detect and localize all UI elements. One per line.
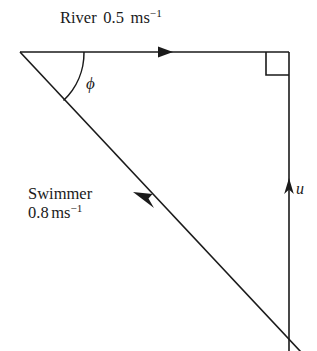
velocity-triangle-diagram: River 0.5 ms−1 Swimmer 0.8ms−1 ϕ u <box>0 0 317 351</box>
river-label-unit: ms <box>131 8 150 27</box>
swimmer-label-value: 0.8 <box>28 203 49 222</box>
swimmer-label-name: Swimmer <box>28 184 92 203</box>
swimmer-label-unit: ms <box>51 203 70 222</box>
resultant-u-label: u <box>296 180 304 199</box>
swimmer-label-exponent: −1 <box>70 202 82 214</box>
right-angle-marker-icon <box>266 52 289 75</box>
angle-arc-icon <box>64 52 85 101</box>
swimmer-velocity-label: Swimmer 0.8ms−1 <box>28 184 92 223</box>
swimmer-label-magnitude: 0.8ms−1 <box>28 203 92 222</box>
angle-phi-label: ϕ <box>86 74 95 94</box>
river-label-name: River <box>60 8 97 27</box>
river-arrowhead-icon <box>158 47 173 58</box>
diagram-canvas <box>0 0 317 351</box>
river-velocity-label: River 0.5 ms−1 <box>60 8 162 27</box>
river-label-exponent: −1 <box>150 7 162 19</box>
river-label-value: 0.5 <box>103 8 124 27</box>
swimmer-arrowhead-icon <box>133 192 154 208</box>
